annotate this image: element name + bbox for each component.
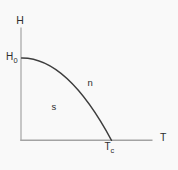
tc-intercept-subscript: c [111, 146, 115, 155]
y-axis-label: H [16, 14, 24, 26]
diagram-canvas: H T H 0 T c n s [0, 0, 178, 170]
phase-diagram: H T H 0 T c n s [0, 0, 178, 170]
h0-intercept-subscript: 0 [14, 56, 18, 65]
x-axis-label: T [160, 131, 167, 143]
critical-field-curve [22, 58, 112, 140]
superconducting-region-label: s [52, 101, 57, 112]
normal-region-label: n [88, 77, 93, 88]
h0-intercept-label: H [6, 51, 13, 62]
